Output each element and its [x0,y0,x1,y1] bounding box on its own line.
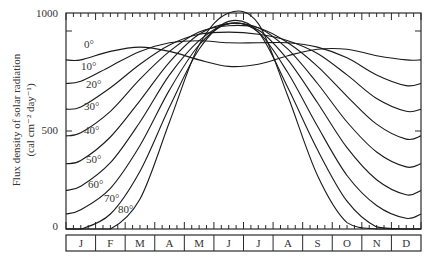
y-tick-1000: 1000 [36,7,59,19]
month-label: A [284,237,292,249]
latitude-labels: 0° 10° 20° 30° 40° 50° 60° 70° 80° [81,38,133,215]
lat-label-20: 20° [86,78,101,90]
month-label: J [256,237,261,249]
solar-radiation-chart: Flux density of solar radiation (cal cm⁻… [0,0,428,266]
lat-label-10: 10° [81,60,96,72]
lat-label-80: 80° [118,203,133,215]
lat-label-50: 50° [86,153,101,165]
lat-label-40: 40° [84,124,99,136]
y-tick-0: 0 [53,220,59,232]
month-label: J [227,237,232,249]
month-label: M [135,237,145,249]
lat-label-30: 30° [84,100,99,112]
curve-lat-20 [66,32,421,112]
month-label: J [79,237,84,249]
month-label: O [343,237,351,249]
curve-lat-50 [66,23,421,195]
lat-label-0: 0° [84,38,94,50]
month-label: D [402,237,410,249]
month-label: A [166,237,174,249]
curve-lat-0 [66,47,421,67]
y-axis-label: Flux density of solar radiation [10,53,22,186]
curve-lat-40 [66,23,421,167]
curve-lat-10 [66,41,421,86]
y-tick-500: 500 [42,124,59,136]
month-label: S [314,237,320,249]
curve-lat-60 [66,23,421,219]
y-axis-units: (cal cm⁻² day⁻¹) [24,83,37,157]
month-label: N [373,237,381,249]
month-axis: JFMAMJJASOND [79,235,411,251]
month-label: F [107,237,113,249]
month-label: M [194,237,204,249]
lat-label-60: 60° [88,178,103,190]
